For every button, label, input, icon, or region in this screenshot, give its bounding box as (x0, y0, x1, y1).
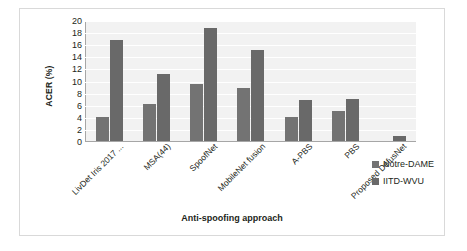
bar (96, 117, 109, 141)
y-tick-label: 2 (77, 125, 82, 134)
legend-swatch-icon (372, 178, 379, 185)
x-tick-label: SpoofNet (188, 142, 219, 173)
bar (204, 28, 217, 141)
bar-group (133, 21, 180, 141)
bar (157, 74, 170, 141)
x-axis-line (85, 141, 416, 142)
y-tick-label: 6 (77, 101, 82, 110)
bar (143, 104, 156, 142)
y-axis-tick-labels: 02468101214161820 (60, 21, 82, 142)
x-tick-label: A-PBS (290, 142, 314, 166)
legend-label: IITD-WVU (383, 176, 424, 186)
chart-figure: ACER (%) 02468101214161820 LivDet Iris 2… (19, 8, 445, 236)
x-tick-label: LivDet Iris 2017 ... (70, 142, 124, 196)
bar (285, 117, 298, 141)
x-axis-title: Anti-spoofing approach (20, 213, 444, 223)
legend-swatch-icon (372, 161, 379, 168)
y-tick-label: 10 (72, 77, 82, 86)
legend-item[interactable]: IITD-WVU (372, 176, 434, 186)
bar (110, 40, 123, 141)
bar (346, 99, 359, 141)
bar (237, 88, 250, 141)
bar-group (322, 21, 369, 141)
bar-group (180, 21, 227, 141)
y-tick-label: 4 (77, 113, 82, 122)
y-tick-label: 16 (72, 41, 82, 50)
y-tick-label: 20 (72, 17, 82, 26)
bar (332, 111, 345, 141)
legend-item[interactable]: Notre-DAME (372, 159, 434, 169)
x-tick-label: MSA(44) (142, 142, 172, 172)
bar (393, 136, 406, 141)
y-tick-label: 14 (72, 53, 82, 62)
x-tick-label: PBS (343, 142, 361, 160)
plot-area (85, 21, 416, 142)
bar (251, 50, 264, 141)
bar (299, 100, 312, 141)
bar-group (86, 21, 133, 141)
bar-group (369, 21, 416, 141)
x-tick-label: MobileNet fusion (216, 142, 267, 193)
chart-legend: Notre-DAMEIITD-WVU (372, 159, 434, 193)
bar-group (275, 21, 322, 141)
y-tick-label: 18 (72, 29, 82, 38)
bar-groups (86, 21, 416, 141)
y-tick-label: 8 (77, 89, 82, 98)
bar (190, 84, 203, 141)
y-axis-title: ACER (%) (44, 41, 54, 131)
y-tick-label: 12 (72, 65, 82, 74)
legend-label: Notre-DAME (383, 159, 434, 169)
bar-group (227, 21, 274, 141)
y-tick-label: 0 (77, 138, 82, 147)
